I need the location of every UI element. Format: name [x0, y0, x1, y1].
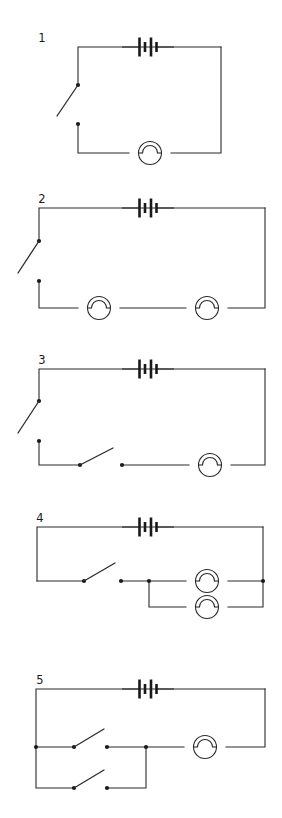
junction-dot-1: [147, 579, 151, 583]
switch-symbol-1[interactable]: [72, 729, 109, 749]
circuit-number-label: 2: [38, 192, 45, 206]
circuit-1: 1: [38, 31, 221, 165]
switch-lever[interactable]: [74, 729, 104, 747]
circuit-3: 3: [18, 353, 265, 477]
wire-segment-7: [228, 581, 263, 607]
circuit-diagram-canvas: 12345: [0, 0, 282, 818]
wire-segment-3: [39, 441, 80, 465]
circuit-number-label: 4: [36, 511, 43, 525]
switch-lever[interactable]: [84, 563, 115, 581]
circuit-5: 5: [34, 673, 265, 790]
switch-lever[interactable]: [74, 770, 104, 788]
circuit-number-label: 3: [38, 353, 45, 367]
worksheet-page: 12345: [0, 0, 282, 818]
switch-symbol-2[interactable]: [78, 448, 124, 467]
switch-fixed-contact: [105, 786, 109, 790]
wire-segment-5: [36, 747, 74, 788]
switch-fixed-contact: [37, 439, 41, 443]
switch-lever[interactable]: [80, 448, 113, 465]
switch-fixed-contact: [105, 745, 109, 749]
switch-lever[interactable]: [18, 401, 39, 433]
switch-symbol-2[interactable]: [72, 770, 109, 790]
lamp-symbol-2: [196, 297, 219, 320]
switch-symbol-1[interactable]: [82, 563, 123, 583]
circuit-2: 2: [18, 192, 265, 320]
switch-fixed-contact: [119, 579, 123, 583]
circuit-4: 4: [36, 511, 265, 619]
junction-dot-2: [144, 745, 148, 749]
junction-dot-2: [261, 579, 265, 583]
lamp-symbol-1: [139, 142, 162, 165]
switch-symbol-1[interactable]: [18, 239, 41, 283]
switch-lever[interactable]: [57, 85, 78, 116]
wire-segment-3: [39, 281, 78, 308]
wire-segment-2: [171, 47, 221, 153]
lamp-symbol-2: [196, 596, 219, 619]
wire-segment-1: [78, 47, 221, 85]
switch-fixed-contact: [76, 122, 80, 126]
junction-dot-1: [34, 745, 38, 749]
wire-segment-3: [78, 124, 129, 153]
switch-symbol-1[interactable]: [57, 83, 80, 126]
circuit-number-label: 5: [36, 673, 43, 687]
wire-segment-2: [231, 369, 265, 465]
circuit-number-label: 1: [38, 31, 45, 45]
switch-lever[interactable]: [18, 241, 39, 273]
lamp-symbol-1: [194, 736, 217, 759]
switch-fixed-contact: [120, 463, 124, 467]
wire-segment-2: [226, 689, 265, 747]
lamp-symbol-1: [88, 297, 111, 320]
lamp-symbol-1: [196, 570, 219, 593]
wire-segment-6: [107, 747, 146, 788]
switch-symbol-1[interactable]: [18, 399, 41, 443]
switch-fixed-contact: [37, 279, 41, 283]
wire-segment-2: [228, 208, 265, 308]
lamp-symbol-1: [199, 454, 222, 477]
wire-segment-6: [149, 581, 186, 607]
